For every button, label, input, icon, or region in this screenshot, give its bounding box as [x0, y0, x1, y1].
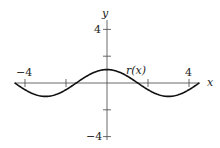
- x-tick-label-4: 4: [185, 66, 192, 79]
- plot: x y −4 4 4 −4 r(x): [0, 0, 220, 148]
- y-axis-label: y: [101, 7, 109, 20]
- y-tick-label-neg4: −4: [86, 130, 102, 143]
- curve-label: r(x): [126, 64, 146, 77]
- x-tick-label-neg4: −4: [16, 66, 32, 79]
- y-tick-label-4: 4: [94, 23, 101, 36]
- x-axis-label: x: [207, 76, 214, 89]
